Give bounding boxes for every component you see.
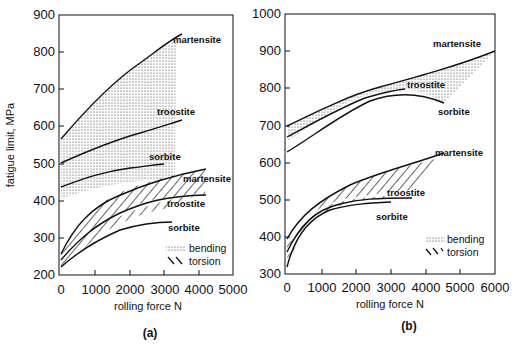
- svg-text:900: 900: [33, 7, 55, 22]
- svg-text:600: 600: [259, 155, 281, 170]
- svg-text:bending: bending: [189, 242, 227, 254]
- svg-text:800: 800: [33, 44, 55, 59]
- svg-text:500: 500: [33, 156, 55, 171]
- svg-text:3000: 3000: [377, 280, 406, 295]
- svg-text:1000: 1000: [308, 280, 337, 295]
- svg-text:300: 300: [259, 266, 281, 281]
- label-a-troostite-bending: troostite: [157, 106, 195, 117]
- x-axis-label-b: rolling force N: [356, 298, 424, 310]
- svg-text:200: 200: [33, 267, 55, 282]
- label-b-martensite-torsion: martensite: [435, 147, 483, 158]
- torsion-region-b: [287, 157, 443, 252]
- label-b-troostite-bending: troostite: [407, 79, 445, 90]
- x-axis-label-a: rolling force N: [114, 300, 182, 312]
- label-b-martensite-bending: martensite: [433, 38, 481, 49]
- svg-text:3000: 3000: [151, 282, 180, 297]
- svg-text:700: 700: [259, 118, 281, 133]
- figure: 200 300 400 500 600 700 800 900 0 1000 2…: [0, 0, 519, 350]
- label-b-sorbite-torsion: sorbite: [376, 211, 408, 222]
- y-tick-labels-b: 300 400 500 600 700 800 900 1000: [252, 6, 281, 281]
- x-tick-labels-a: 0 1000 2000 3000 4000 5000: [57, 282, 247, 297]
- x-tick-labels-b: 0 1000 2000 3000 4000 5000 6000: [283, 280, 509, 295]
- svg-text:800: 800: [259, 80, 281, 95]
- svg-text:5000: 5000: [446, 280, 475, 295]
- svg-text:4000: 4000: [185, 282, 214, 297]
- chart-b: 300 400 500 600 700 800 900 1000 0 1000 …: [252, 6, 509, 333]
- svg-text:1000: 1000: [82, 282, 111, 297]
- label-b-sorbite-bending: sorbite: [438, 106, 470, 117]
- legend-dots-icon: [166, 246, 186, 252]
- label-a-sorbite-torsion: sorbite: [168, 222, 200, 233]
- label-b-troostite-torsion: troostite: [387, 187, 425, 198]
- legend-a: bending torsion: [166, 242, 227, 267]
- svg-text:torsion: torsion: [189, 255, 221, 267]
- svg-text:400: 400: [33, 193, 55, 208]
- svg-text:2000: 2000: [116, 282, 145, 297]
- panel-label-b: (b): [401, 319, 416, 333]
- svg-text:600: 600: [33, 118, 55, 133]
- svg-text:500: 500: [259, 192, 281, 207]
- svg-text:5000: 5000: [219, 282, 248, 297]
- label-a-martensite-bending: martensite: [173, 34, 221, 45]
- svg-text:900: 900: [259, 43, 281, 58]
- chart-a: 200 300 400 500 600 700 800 900 0 1000 2…: [4, 7, 247, 340]
- label-a-martensite-torsion: martensite: [183, 173, 231, 184]
- panel-label-a: (a): [143, 326, 158, 340]
- svg-text:bending: bending: [447, 233, 485, 245]
- svg-text:0: 0: [57, 282, 64, 297]
- svg-text:1000: 1000: [252, 6, 281, 21]
- svg-text:700: 700: [33, 81, 55, 96]
- y-tick-labels-a: 200 300 400 500 600 700 800 900: [33, 7, 55, 282]
- legend-dots-icon: [425, 237, 445, 243]
- y-axis-label-a: fatigue limit, MPa: [4, 102, 16, 187]
- svg-text:4000: 4000: [412, 280, 441, 295]
- label-a-troostite-torsion: troostite: [167, 198, 205, 209]
- label-a-sorbite-bending: sorbite: [149, 151, 181, 162]
- svg-text:300: 300: [33, 230, 55, 245]
- legend-hatch-icon: [426, 248, 443, 255]
- legend-hatch-icon: [168, 257, 182, 264]
- legend-b: bending torsion: [425, 233, 485, 258]
- svg-text:2000: 2000: [342, 280, 371, 295]
- svg-text:6000: 6000: [481, 280, 510, 295]
- svg-text:0: 0: [283, 280, 290, 295]
- svg-text:torsion: torsion: [447, 246, 479, 258]
- svg-text:400: 400: [259, 229, 281, 244]
